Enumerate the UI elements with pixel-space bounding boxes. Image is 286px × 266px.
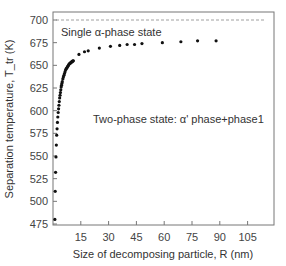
x-tick-label: 90: [214, 231, 226, 243]
y-tick-label: 675: [30, 37, 48, 49]
data-point: [58, 100, 61, 103]
annotation-two-phase: Two-phase state: α' phase+phase1: [93, 113, 264, 125]
data-point: [98, 47, 101, 50]
data-point: [83, 50, 86, 53]
data-point: [59, 91, 62, 94]
data-point: [54, 155, 57, 158]
data-point: [109, 45, 112, 48]
y-axis-title: Separation temperature, T_tr (K): [3, 40, 15, 199]
y-tick-label: 525: [30, 173, 48, 185]
data-point: [77, 53, 80, 56]
data-point: [118, 44, 121, 47]
data-point: [61, 80, 64, 83]
x-axis: 153045607590105: [75, 221, 257, 243]
y-tick-label: 550: [30, 150, 48, 162]
data-point: [72, 59, 75, 62]
data-point: [54, 171, 57, 174]
data-point: [87, 49, 90, 52]
data-point: [53, 218, 56, 221]
x-tick-label: 45: [130, 231, 142, 243]
data-point: [57, 104, 60, 107]
data-point: [55, 127, 58, 130]
chart: 475500525550575600625650675700 153045607…: [0, 0, 286, 266]
y-tick-label: 650: [30, 59, 48, 71]
x-tick-label: 105: [238, 231, 256, 243]
x-axis-title: Size of decomposing particle, R (nm): [73, 248, 253, 260]
x-tick-label: 30: [102, 231, 114, 243]
annotation-single-phase: Single α-phase state: [61, 26, 162, 38]
y-tick-label: 600: [30, 105, 48, 117]
y-tick-label: 575: [30, 127, 48, 139]
data-point: [57, 111, 60, 114]
data-point: [57, 107, 60, 110]
y-tick-label: 700: [30, 14, 48, 26]
data-point: [55, 134, 58, 137]
data-point: [54, 190, 57, 193]
data-point: [56, 115, 59, 118]
data-point: [140, 42, 143, 45]
data-point: [214, 39, 217, 42]
x-tick-label: 75: [186, 231, 198, 243]
x-tick-label: 15: [75, 231, 87, 243]
data-point: [58, 94, 61, 97]
data-point: [55, 144, 58, 147]
data-point: [179, 40, 182, 43]
data-point: [58, 96, 61, 99]
data-point: [59, 88, 62, 91]
x-tick-label: 60: [158, 231, 170, 243]
data-point: [161, 41, 164, 44]
data-points: [53, 39, 217, 221]
y-tick-label: 475: [30, 218, 48, 230]
y-tick-label: 500: [30, 195, 48, 207]
data-point: [56, 121, 59, 124]
y-tick-label: 625: [30, 82, 48, 94]
data-point: [133, 43, 136, 46]
data-point: [196, 39, 199, 42]
data-point: [126, 43, 129, 46]
